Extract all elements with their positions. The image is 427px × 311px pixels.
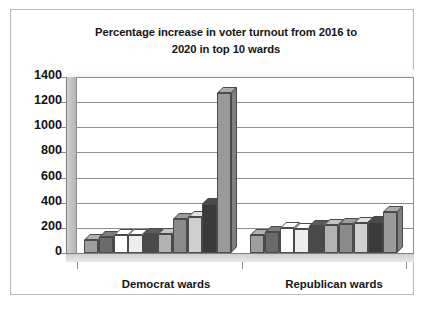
bar-side xyxy=(231,87,237,253)
gridline-400 xyxy=(77,203,414,204)
bar-face xyxy=(158,234,172,253)
gridline-600 xyxy=(77,178,414,179)
bar-face xyxy=(114,235,128,253)
plot-area: 1400120010008006004002000 xyxy=(66,70,414,270)
bar-face xyxy=(217,93,231,253)
bar-republican-9 xyxy=(368,216,382,253)
bar-democrat-10 xyxy=(217,87,231,253)
bar-face xyxy=(354,223,368,253)
y-axis-slab xyxy=(66,77,77,253)
chart-title-line-1: Percentage increase in voter turnout fro… xyxy=(39,24,413,41)
bar-face xyxy=(202,204,216,253)
bar-democrat-8 xyxy=(188,211,202,253)
chart-page: Percentage increase in voter turnout fro… xyxy=(0,0,427,311)
x-axis-tick-1 xyxy=(242,262,243,269)
bar-face xyxy=(173,219,187,253)
gridline-1400 xyxy=(77,77,414,78)
bar-republican-8 xyxy=(354,217,368,253)
category-label-democrat: Democrat wards xyxy=(71,278,261,290)
bar-face xyxy=(84,240,98,253)
y-tick-label-0: 0 xyxy=(14,244,62,258)
bar-republican-5 xyxy=(309,220,323,253)
bar-democrat-1 xyxy=(84,234,98,253)
bar-republican-7 xyxy=(339,218,353,253)
gridline-1000 xyxy=(77,127,414,128)
bar-face xyxy=(280,228,294,253)
bar-face xyxy=(309,226,323,253)
bar-face xyxy=(128,235,142,253)
gridline-1200 xyxy=(77,102,414,103)
plot-floor xyxy=(66,253,414,262)
bar-republican-3 xyxy=(280,222,294,253)
bar-democrat-4 xyxy=(128,229,142,253)
bar-democrat-2 xyxy=(99,231,113,253)
bar-face xyxy=(143,234,157,253)
bar-face xyxy=(383,212,397,253)
bar-republican-6 xyxy=(324,219,338,253)
bar-face xyxy=(99,237,113,253)
bar-democrat-9 xyxy=(202,198,216,253)
y-tick-label-200: 200 xyxy=(14,219,62,233)
bar-democrat-5 xyxy=(143,228,157,253)
bar-republican-2 xyxy=(265,226,279,253)
chart-frame: Percentage increase in voter turnout fro… xyxy=(10,9,414,295)
bar-face xyxy=(250,235,264,253)
bar-republican-4 xyxy=(294,223,308,253)
y-tick-label-1200: 1200 xyxy=(14,93,62,107)
y-tick-label-600: 600 xyxy=(14,169,62,183)
bar-face xyxy=(368,222,382,253)
bar-democrat-3 xyxy=(114,229,128,253)
bar-face xyxy=(265,232,279,253)
bar-face xyxy=(188,217,202,253)
chart-title-line-2: 2020 in top 10 wards xyxy=(39,41,413,58)
y-tick-label-800: 800 xyxy=(14,143,62,157)
y-tick-label-400: 400 xyxy=(14,194,62,208)
category-label-republican: Republican wards xyxy=(239,278,427,290)
chart-title: Percentage increase in voter turnout fro… xyxy=(39,24,413,58)
bar-face xyxy=(324,225,338,253)
bar-republican-10 xyxy=(383,206,397,253)
bar-republican-1 xyxy=(250,229,264,253)
x-axis-tick-0 xyxy=(77,262,78,269)
bar-face xyxy=(339,224,353,253)
bar-face xyxy=(294,229,308,253)
x-axis-tick-2 xyxy=(406,262,407,269)
bar-side xyxy=(397,205,403,253)
gridline-800 xyxy=(77,152,414,153)
y-tick-label-1400: 1400 xyxy=(14,68,62,82)
y-tick-label-1000: 1000 xyxy=(14,118,62,132)
bar-democrat-6 xyxy=(158,228,172,253)
bar-democrat-7 xyxy=(173,213,187,253)
